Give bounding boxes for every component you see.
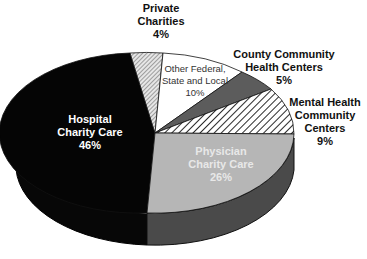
label-private: Private Charities 4%	[131, 2, 191, 41]
label-physician: Physician Charity Care 26%	[176, 145, 266, 184]
label-other: Other Federal, State and Local 10%	[160, 63, 230, 99]
label-hospital: Hospital Charity Care 46%	[50, 113, 130, 152]
label-county: County Community Health Centers 5%	[232, 48, 336, 87]
label-mental: Mental Health Community Centers 9%	[285, 96, 365, 148]
